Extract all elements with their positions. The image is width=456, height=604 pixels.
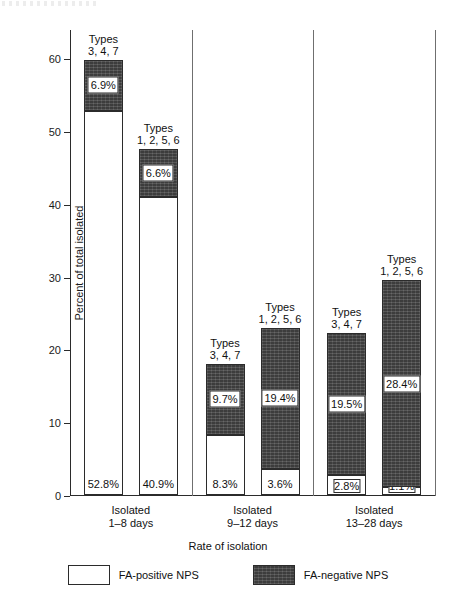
bar-caption: Types1, 2, 5, 6 xyxy=(380,253,423,277)
group-separator xyxy=(313,30,314,496)
bar-value-fa-positive: 40.9% xyxy=(143,478,174,490)
bar-caption-line2: 3, 4, 7 xyxy=(88,45,119,57)
bar-segment-fa-positive: 40.9% xyxy=(139,197,178,495)
bar-segment-fa-positive: 8.3% xyxy=(206,435,245,495)
group-separator xyxy=(435,30,436,496)
bar-caption: Types3, 4, 7 xyxy=(88,33,119,57)
bar: 1.1%28.4%Types1, 2, 5, 6 xyxy=(382,280,421,495)
legend-item-fa-negative: FA-negative NPS xyxy=(253,565,388,585)
y-tick-label: 20 xyxy=(49,345,61,356)
bar: 52.8%6.9%Types3, 4, 7 xyxy=(84,60,123,495)
y-tick-label: 40 xyxy=(49,200,61,211)
bar-value-fa-negative: 19.5% xyxy=(328,395,365,412)
y-tick-mark xyxy=(64,350,70,351)
bar-value-fa-positive: 3.6% xyxy=(267,478,292,490)
legend: FA-positive NPS FA-negative NPS xyxy=(0,565,456,585)
y-tick-mark xyxy=(64,132,70,133)
group-label: Isolated13–28 days xyxy=(346,504,403,530)
scan-artifact xyxy=(2,1,98,6)
bar-segment-fa-negative: 19.5% xyxy=(327,333,366,475)
bar-value-fa-positive: 8.3% xyxy=(212,478,237,490)
x-axis-title: Rate of isolation xyxy=(0,540,456,552)
bar-value-fa-negative: 9.7% xyxy=(209,391,240,408)
bar-caption: Types1, 2, 5, 6 xyxy=(259,301,302,325)
bar-segment-fa-negative: 6.9% xyxy=(84,60,123,110)
bar-value-fa-negative: 6.6% xyxy=(143,165,174,182)
group-label-line2: 1–8 days xyxy=(109,517,154,530)
bar: 2.8%19.5%Types3, 4, 7 xyxy=(327,333,366,495)
y-tick-label: 10 xyxy=(49,418,61,429)
group-label: Isolated9–12 days xyxy=(227,504,278,530)
bar-segment-fa-positive: 52.8% xyxy=(84,111,123,495)
bar-caption: Types1, 2, 5, 6 xyxy=(137,122,180,146)
bar: 8.3%9.7%Types3, 4, 7 xyxy=(206,364,245,495)
bar-caption-line1: Types xyxy=(88,33,119,45)
group-label-line1: Isolated xyxy=(227,504,278,517)
bar-segment-fa-negative: 28.4% xyxy=(382,280,421,487)
group-label-line2: 9–12 days xyxy=(227,517,278,530)
bar-segment-fa-positive: 2.8% xyxy=(327,475,366,495)
y-tick-label: 60 xyxy=(49,54,61,65)
legend-swatch-fa-positive-icon xyxy=(68,565,110,585)
y-tick-mark xyxy=(64,205,70,206)
bar-caption-line1: Types xyxy=(137,122,180,134)
bar: 40.9%6.6%Types1, 2, 5, 6 xyxy=(139,149,178,495)
bar-chart: Percent of total isolated 0102030405060 … xyxy=(0,0,456,604)
bar-caption-line2: 1, 2, 5, 6 xyxy=(137,134,180,146)
legend-label-fa-negative: FA-negative NPS xyxy=(304,569,388,581)
bar-caption-line2: 3, 4, 7 xyxy=(331,318,362,330)
y-tick-mark xyxy=(64,59,70,60)
bar-value-fa-negative: 28.4% xyxy=(383,375,420,392)
y-axis-line xyxy=(70,30,71,496)
y-tick-mark xyxy=(64,496,70,497)
y-tick-label: 0 xyxy=(55,491,61,502)
bar-segment-fa-positive: 3.6% xyxy=(261,469,300,495)
bar-segment-fa-negative: 19.4% xyxy=(261,328,300,469)
bar-caption-line1: Types xyxy=(259,301,302,313)
bar-caption: Types3, 4, 7 xyxy=(210,337,241,361)
y-tick-label: 50 xyxy=(49,127,61,138)
group-separator xyxy=(192,30,193,496)
bar-caption-line1: Types xyxy=(331,306,362,318)
group-label-line2: 13–28 days xyxy=(346,517,403,530)
group-label: Isolated1–8 days xyxy=(109,504,154,530)
bar-segment-fa-negative: 6.6% xyxy=(139,149,178,197)
bar-segment-fa-positive: 1.1% xyxy=(382,487,421,495)
bar: 3.6%19.4%Types1, 2, 5, 6 xyxy=(261,328,300,495)
bar-value-fa-positive: 2.8% xyxy=(333,479,360,493)
plot-area: Percent of total isolated 0102030405060 … xyxy=(70,30,435,496)
y-tick-mark xyxy=(64,423,70,424)
x-axis-line xyxy=(70,495,435,496)
legend-item-fa-positive: FA-positive NPS xyxy=(68,565,199,585)
bar-caption-line2: 3, 4, 7 xyxy=(210,349,241,361)
group-label-line1: Isolated xyxy=(346,504,403,517)
y-tick-label: 30 xyxy=(49,273,61,284)
legend-label-fa-positive: FA-positive NPS xyxy=(119,569,199,581)
bar-value-fa-negative: 6.9% xyxy=(88,77,119,94)
bar-caption: Types3, 4, 7 xyxy=(331,306,362,330)
bar-segment-fa-negative: 9.7% xyxy=(206,364,245,435)
bar-caption-line1: Types xyxy=(380,253,423,265)
group-label-line1: Isolated xyxy=(109,504,154,517)
bar-value-fa-positive: 52.8% xyxy=(88,478,119,490)
bar-caption-line1: Types xyxy=(210,337,241,349)
bar-caption-line2: 1, 2, 5, 6 xyxy=(380,265,423,277)
bar-caption-line2: 1, 2, 5, 6 xyxy=(259,313,302,325)
bar-value-fa-negative: 19.4% xyxy=(261,390,298,407)
legend-swatch-fa-negative-icon xyxy=(253,565,295,585)
y-tick-mark xyxy=(64,278,70,279)
